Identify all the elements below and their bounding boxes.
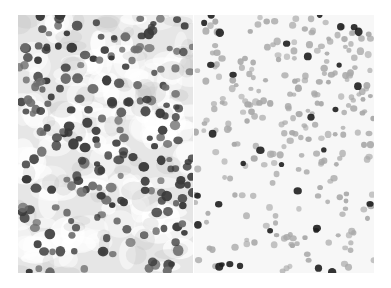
- cell-field-left: [18, 15, 193, 273]
- micrograph-panel-left: [18, 15, 193, 273]
- cell-field-right: [194, 15, 374, 273]
- micrograph-panel-right: [194, 15, 374, 273]
